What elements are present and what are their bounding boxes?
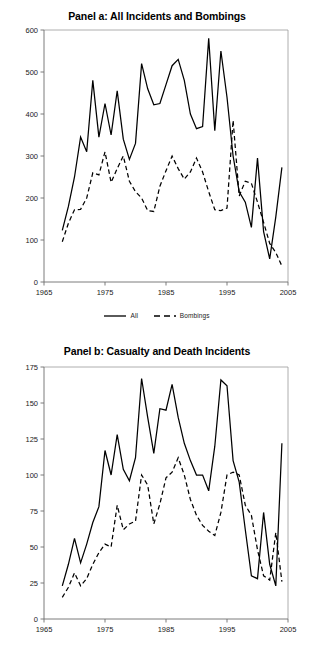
panel-a-legend: All Bombings [0,311,314,319]
svg-text:0: 0 [34,615,38,624]
svg-text:1975: 1975 [97,625,114,634]
svg-text:2005: 2005 [280,288,297,297]
svg-text:300: 300 [25,152,38,161]
svg-text:1965: 1965 [36,625,53,634]
svg-text:1995: 1995 [219,288,236,297]
svg-text:0: 0 [34,278,38,287]
panel-b: Panel b: Casualty and Death Incidents 02… [0,335,314,669]
svg-text:500: 500 [25,68,38,77]
legend-item-bombings: Bombings [154,311,210,319]
svg-text:1985: 1985 [158,625,175,634]
svg-text:600: 600 [25,26,38,35]
svg-text:150: 150 [25,399,38,408]
svg-text:125: 125 [25,435,38,444]
panel-a-plot: 010020030040050060019651975198519952005 [0,0,314,305]
svg-text:75: 75 [30,507,38,516]
legend-key-dashed [154,313,176,319]
svg-text:400: 400 [25,110,38,119]
legend-key-solid [104,313,126,319]
svg-text:1975: 1975 [97,288,114,297]
svg-text:100: 100 [25,236,38,245]
svg-text:1995: 1995 [219,625,236,634]
svg-text:100: 100 [25,471,38,480]
panel-b-plot: 025507510012515017519651975198519952005 [0,335,314,640]
svg-text:1985: 1985 [158,288,175,297]
svg-text:25: 25 [30,579,38,588]
panel-a: Panel a: All Incidents and Bombings 0100… [0,0,314,335]
figure-root: Panel a: All Incidents and Bombings 0100… [0,0,314,669]
svg-text:50: 50 [30,543,38,552]
svg-text:175: 175 [25,363,38,372]
legend-label-bombings: Bombings [180,312,210,319]
svg-text:200: 200 [25,194,38,203]
legend-item-all: All [104,311,138,319]
svg-text:1965: 1965 [36,288,53,297]
svg-text:2005: 2005 [280,625,297,634]
legend-label-all: All [130,312,138,319]
